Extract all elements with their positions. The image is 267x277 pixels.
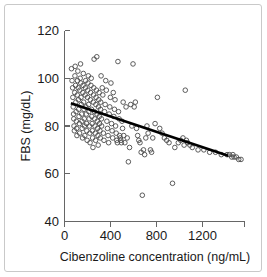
data-point (113, 97, 118, 102)
data-point (85, 128, 90, 133)
y-tick-label-80: 80 (45, 119, 59, 134)
data-point (133, 100, 138, 105)
data-point (103, 78, 108, 83)
data-point (102, 138, 107, 143)
data-point (108, 95, 113, 100)
data-point (90, 136, 95, 141)
data-point (146, 131, 151, 136)
data-point (111, 90, 116, 95)
data-point (132, 105, 137, 110)
scatter-chart: 120 100 80 60 40 0 400 800 1200 Cibenzol… (0, 0, 267, 277)
data-point (103, 102, 108, 107)
y-axis-title: FBS (mg/dL) (19, 91, 33, 162)
data-point (76, 69, 81, 74)
x-tick-label-1200: 1200 (188, 228, 217, 243)
data-point (120, 126, 125, 131)
data-point (91, 145, 96, 150)
data-point (81, 71, 86, 76)
x-tick-label-0: 0 (61, 228, 68, 243)
data-point (170, 181, 175, 186)
data-point (140, 193, 145, 198)
data-point (155, 95, 160, 100)
data-point (104, 88, 109, 93)
data-point (113, 124, 118, 129)
data-point (109, 81, 114, 86)
data-point (101, 131, 106, 136)
data-point (143, 136, 148, 141)
data-point (73, 64, 78, 69)
data-point (105, 119, 110, 124)
data-point (99, 74, 104, 79)
x-tick-label-400: 400 (100, 228, 122, 243)
x-tick-labels: 0 400 800 1200 (61, 228, 217, 243)
data-point (116, 109, 121, 114)
data-point (73, 74, 78, 79)
x-axis-title: Cibenzoline concentration (ng/mL) (60, 250, 250, 264)
y-tick-marks (65, 31, 70, 222)
y-tick-labels: 120 100 80 60 40 (37, 23, 59, 229)
data-point (106, 133, 111, 138)
data-point (106, 140, 111, 145)
data-point (183, 88, 188, 93)
data-point (125, 136, 130, 141)
data-point (93, 138, 98, 143)
figure-root: 120 100 80 60 40 0 400 800 1200 Cibenzol… (0, 0, 267, 277)
data-point (124, 105, 129, 110)
data-point (153, 121, 158, 126)
data-point (78, 62, 83, 67)
data-point (173, 145, 178, 150)
data-point (70, 78, 75, 83)
data-point (116, 59, 121, 64)
data-point (105, 126, 110, 131)
data-point (121, 100, 126, 105)
data-point (131, 62, 136, 67)
y-tick-label-40: 40 (45, 214, 59, 229)
x-tick-marks (65, 222, 245, 227)
data-point (157, 126, 162, 131)
data-point (127, 145, 132, 150)
data-point (126, 160, 131, 165)
y-tick-label-60: 60 (45, 166, 59, 181)
data-point (142, 152, 147, 157)
y-tick-label-120: 120 (37, 23, 59, 38)
data-point (150, 136, 155, 141)
x-tick-label-800: 800 (146, 228, 168, 243)
data-point (135, 133, 140, 138)
data-point (96, 143, 101, 148)
data-point (196, 148, 201, 153)
data-point (71, 95, 76, 100)
data-point (101, 93, 106, 98)
data-points-layer (69, 54, 243, 197)
data-point (107, 105, 112, 110)
y-tick-label-100: 100 (37, 71, 59, 86)
